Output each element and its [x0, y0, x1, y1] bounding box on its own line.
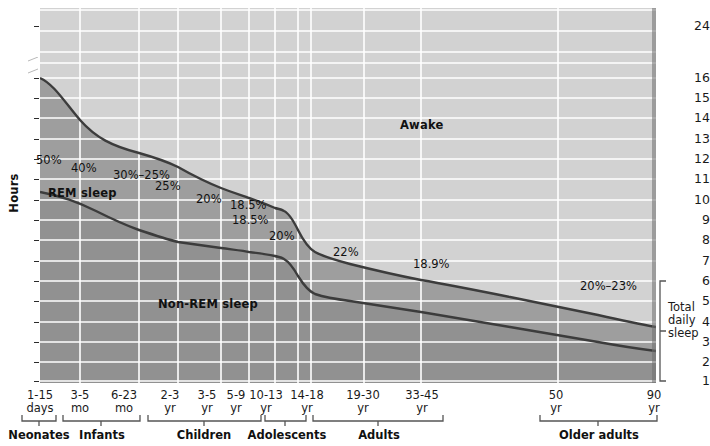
- group-label-older-adults: Older adults: [540, 428, 658, 442]
- bracket-adults: [313, 415, 443, 426]
- bracket-total-daily-sleep: [660, 281, 666, 381]
- group-label-adults: Adults: [340, 428, 418, 442]
- life-stage-brackets: [0, 0, 710, 446]
- bracket-infants: [63, 415, 140, 426]
- group-label-infants: Infants: [64, 428, 140, 442]
- bracket-children: [148, 415, 261, 426]
- group-label-adolescents: Adolescents: [232, 428, 342, 442]
- bracket-neonates: [22, 415, 56, 426]
- total-daily-sleep-line3: sleep: [668, 327, 710, 340]
- bracket-adolescents: [265, 415, 306, 426]
- total-daily-sleep-annotation: Total daily sleep: [668, 301, 710, 340]
- sleep-lifespan-chart: Hours: [0, 0, 710, 446]
- bracket-older-adults: [540, 415, 657, 426]
